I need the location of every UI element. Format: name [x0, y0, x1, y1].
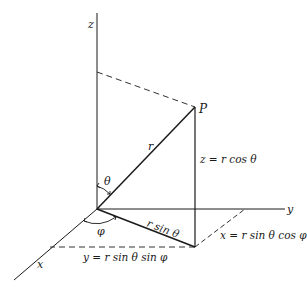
x-equation: x = r sin θ cos φ: [220, 229, 307, 241]
z-equation: z = r cos θ: [199, 153, 257, 165]
theta-label: θ: [104, 175, 111, 188]
point-p-label: P: [198, 102, 208, 116]
phi-label: φ: [97, 225, 105, 238]
r-label: r: [148, 140, 154, 153]
phi-arc: [84, 217, 116, 224]
dashed-to-y-axis: [195, 209, 245, 247]
z-axis-label: z: [87, 18, 94, 31]
y-axis-label: y: [286, 203, 294, 216]
x-axis-label: x: [37, 258, 44, 271]
diagram-svg: z y x P r θ φ r sin θ z = r cos θ x = r …: [0, 0, 307, 289]
y-equation: y = r sin θ sin φ: [82, 251, 168, 263]
r-sin-theta-label: r sin θ: [145, 217, 181, 240]
r-vector: [97, 107, 195, 209]
dashed-z-to-p: [97, 72, 195, 107]
spherical-coordinates-diagram: z y x P r θ φ r sin θ z = r cos θ x = r …: [0, 0, 307, 289]
